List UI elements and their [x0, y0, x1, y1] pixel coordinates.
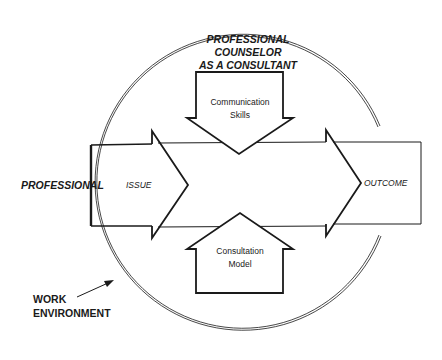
professional-label: PROFESSIONAL	[21, 179, 104, 191]
title-line-2: COUNSELOR	[175, 46, 321, 59]
consultation-label-line-2: Model	[200, 258, 280, 271]
communication-label-line-1: Communication	[200, 96, 280, 109]
consultation-label-line-1: Consultation	[200, 245, 280, 258]
consultation-model-label: Consultation Model	[200, 245, 280, 271]
outcome-arrow-head	[326, 130, 361, 236]
work-label-line-2: ENVIRONMENT	[33, 306, 111, 320]
communication-label-line-2: Skills	[200, 109, 280, 122]
communication-skills-label: Communication Skills	[200, 96, 280, 122]
issue-arrow-head	[152, 131, 188, 238]
work-environment-label: WORK ENVIRONMENT	[33, 292, 111, 320]
title-line-1: PROFESSIONAL	[175, 33, 321, 46]
outcome-label: OUTCOME	[364, 178, 407, 188]
title-line-3: AS A CONSULTANT	[175, 59, 321, 72]
issue-label: ISSUE	[126, 180, 152, 190]
work-label-line-1: WORK	[33, 292, 111, 306]
diagram-title: PROFESSIONAL COUNSELOR AS A CONSULTANT	[175, 33, 321, 72]
